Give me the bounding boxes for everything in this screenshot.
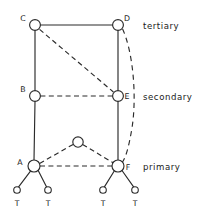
node-label-T2: T <box>45 199 51 208</box>
edge-F-T3 <box>104 171 114 187</box>
tier-label-group: tertiary secondary primary <box>143 21 192 172</box>
edge-M-F <box>83 144 114 162</box>
node-label-B: B <box>20 85 26 94</box>
edge-A-T2 <box>38 171 46 187</box>
node-A[interactable] <box>28 160 40 172</box>
edge-F-T4 <box>122 171 134 187</box>
node-label-T3: T <box>100 199 106 208</box>
tier-label-secondary: secondary <box>143 92 192 102</box>
node-D[interactable] <box>113 20 124 31</box>
edge-A-M <box>40 144 74 163</box>
node-E[interactable] <box>113 91 124 102</box>
edge-C-E <box>40 29 114 92</box>
node-label-E: E <box>124 92 129 101</box>
node-T1[interactable] <box>14 187 21 194</box>
terminal-label-group: T T T T <box>14 199 138 208</box>
node-label-T4: T <box>132 199 138 208</box>
diagram-canvas: C D B E A F T T T T tertiary secondary p… <box>0 0 221 216</box>
tier-label-primary: primary <box>143 162 180 172</box>
node-label-T1: T <box>14 199 20 208</box>
edge-A-T1 <box>19 171 31 187</box>
node-F[interactable] <box>112 160 124 172</box>
node-label-D: D <box>124 14 130 23</box>
node-label-C: C <box>20 14 26 23</box>
node-label-F: F <box>126 163 131 172</box>
node-B[interactable] <box>30 91 41 102</box>
node-T3[interactable] <box>100 187 107 194</box>
node-C[interactable] <box>30 20 41 31</box>
node-label-A: A <box>17 158 23 167</box>
tier-label-tertiary: tertiary <box>143 21 179 31</box>
terminal-node-group <box>14 187 139 194</box>
node-bridge-unlabeled[interactable] <box>73 137 83 147</box>
node-T4[interactable] <box>132 187 139 194</box>
lattice-diagram-svg: C D B E A F T T T T tertiary secondary p… <box>0 0 221 216</box>
edge-B-A <box>34 101 35 160</box>
node-T2[interactable] <box>45 187 52 194</box>
